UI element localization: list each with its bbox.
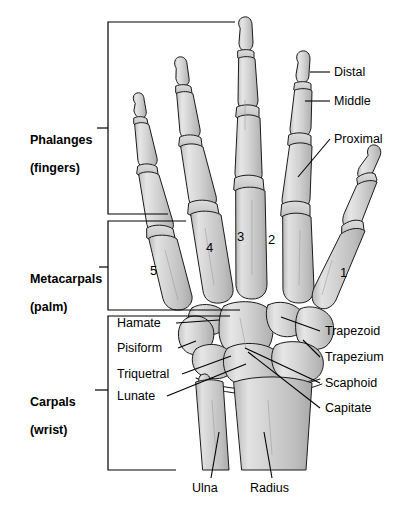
- label-middle: Middle: [334, 94, 371, 108]
- digit-number-4: 4: [206, 241, 213, 255]
- group-label-phalanges-line2: (fingers): [30, 161, 80, 175]
- label-radius: Radius: [250, 481, 289, 495]
- label-hamate: Hamate: [117, 316, 161, 330]
- label-pisiform: Pisiform: [117, 341, 162, 355]
- label-trapezoid: Trapezoid: [325, 324, 380, 338]
- label-ulna: Ulna: [192, 481, 218, 495]
- label-capitate: Capitate: [325, 401, 372, 415]
- group-label-metacarpals-line1: Metacarpals: [30, 272, 102, 286]
- label-proximal: Proximal: [334, 132, 383, 146]
- group-label-carpals-line2: (wrist): [30, 423, 68, 437]
- group-label-metacarpals: Metacarpals (palm): [16, 258, 102, 328]
- group-label-phalanges: Phalanges (fingers): [16, 119, 92, 189]
- label-trapezium: Trapezium: [325, 350, 384, 364]
- group-label-phalanges-line1: Phalanges: [30, 133, 93, 147]
- group-label-carpals: Carpals (wrist): [16, 381, 76, 451]
- digit-number-2: 2: [268, 233, 275, 247]
- group-label-carpals-line1: Carpals: [30, 395, 76, 409]
- label-lunate: Lunate: [117, 389, 155, 403]
- digit-number-5: 5: [150, 264, 157, 278]
- hand-skeleton-diagram: Phalanges (fingers) Metacarpals (palm) C…: [0, 0, 407, 512]
- digit-number-1: 1: [340, 266, 347, 280]
- group-label-metacarpals-line2: (palm): [30, 300, 68, 314]
- label-triquetral: Triquetral: [117, 367, 169, 381]
- label-scaphoid: Scaphoid: [325, 376, 377, 390]
- label-distal: Distal: [334, 65, 365, 79]
- digit-number-3: 3: [237, 230, 244, 244]
